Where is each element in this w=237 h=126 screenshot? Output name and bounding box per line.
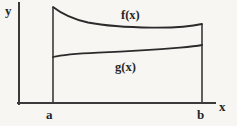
g-curve-label: g(x) xyxy=(115,61,136,74)
x-axis-label: x xyxy=(219,100,226,113)
y-axis-label: y xyxy=(5,4,12,17)
g-curve-path xyxy=(53,45,202,57)
f-curve-label: f(x) xyxy=(121,9,140,22)
bound-label-a: a xyxy=(46,108,53,121)
function-graph-figure: y x a b f(x) g(x) xyxy=(0,0,237,126)
bound-label-b: b xyxy=(197,108,204,121)
